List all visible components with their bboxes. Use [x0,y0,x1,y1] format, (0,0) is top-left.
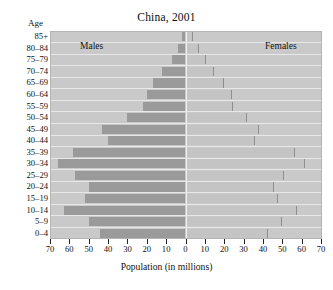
y-tick-label-20–24: 20–24 [2,181,48,191]
bar-male-40–44 [108,136,185,145]
bar-male-35–39 [73,148,185,157]
bar-male-45–49 [102,125,185,134]
bar-male-0–4 [100,229,185,238]
x-tick-label-13: 60 [292,244,312,254]
row-separator [50,135,322,136]
bar-female-15–19 [187,194,278,203]
y-tick-label-30–34: 30–34 [2,158,48,168]
x-axis-tick-labels: 70605040302010010203040506070 [0,244,333,256]
bar-male-55–59 [143,102,186,111]
row-separator [50,111,322,112]
x-tick-label-10: 30 [234,244,254,254]
x-tick-label-4: 30 [117,244,137,254]
y-tick-label-60–64: 60–64 [2,89,48,99]
x-tick-label-12: 50 [272,244,292,254]
bar-female-10–14 [187,206,297,215]
y-tick-label-0–4: 0–4 [2,228,48,238]
x-tick-label-3: 40 [98,244,118,254]
bar-male-50–54 [127,113,185,122]
bar-female-35–39 [187,148,295,157]
y-tick-label-5–9: 5–9 [2,216,48,226]
y-tick-label-10–14: 10–14 [2,205,48,215]
bar-male-70–74 [162,67,185,76]
x-tick-label-7: 0 [176,244,196,254]
row-separator [50,123,322,124]
y-tick-label-25–29: 25–29 [2,170,48,180]
chart-title: China, 2001 [0,11,333,23]
bar-male-30–34 [58,159,186,168]
bar-female-20–24 [187,182,274,191]
bar-female-85+ [187,32,193,41]
bar-female-0–4 [187,229,268,238]
y-tick-label-35–39: 35–39 [2,147,48,157]
x-tick-label-5: 20 [137,244,157,254]
bar-male-80–84 [178,44,186,53]
y-tick-label-55–59: 55–59 [2,101,48,111]
bar-male-15–19 [85,194,186,203]
y-tick-label-50–54: 50–54 [2,112,48,122]
row-separator [50,65,322,66]
y-tick-label-85+: 85+ [2,31,48,41]
bar-male-5–9 [89,217,186,226]
bar-female-55–59 [187,102,233,111]
bar-female-50–54 [187,113,247,122]
bar-male-25–29 [75,171,185,180]
x-tick-label-14: 70 [311,244,331,254]
bar-female-25–29 [187,171,284,180]
y-tick-label-80–84: 80–84 [2,43,48,53]
bar-female-45–49 [187,125,259,134]
bar-male-10–14 [64,206,186,215]
row-separator [50,227,322,228]
x-tick-label-0: 70 [40,244,60,254]
row-separator [50,77,322,78]
bar-female-70–74 [187,67,214,76]
bar-male-85+ [182,32,186,41]
y-axis-tick-labels: 85+80–8475–7970–7465–6960–6455–5950–5445… [0,31,48,239]
x-tick-label-6: 10 [156,244,176,254]
x-tick-label-1: 60 [59,244,79,254]
bar-female-65–69 [187,78,224,87]
x-tick-label-11: 40 [253,244,273,254]
series-label-females: Females [265,41,297,51]
bar-male-65–69 [153,78,186,87]
bar-female-60–64 [187,90,232,99]
population-pyramid-figure: China, 2001 Age 85+80–8475–7970–7465–696… [0,0,333,290]
bar-female-5–9 [187,217,282,226]
x-axis-title: Population (in millions) [0,261,333,272]
bar-male-20–24 [89,182,186,191]
bar-female-80–84 [187,44,199,53]
x-tick-label-2: 50 [79,244,99,254]
x-tick-label-9: 20 [214,244,234,254]
y-axis-title: Age [28,18,43,28]
y-tick-label-15–19: 15–19 [2,193,48,203]
y-tick-label-70–74: 70–74 [2,66,48,76]
row-separator [50,88,322,89]
x-tick-label-8: 10 [195,244,215,254]
plot-area [50,31,322,239]
bar-male-60–64 [147,90,186,99]
bar-female-75–79 [187,55,206,64]
series-label-males: Males [80,41,103,51]
bar-female-30–34 [187,159,305,168]
y-tick-label-45–49: 45–49 [2,124,48,134]
row-separator [50,54,322,55]
bar-female-40–44 [187,136,255,145]
row-separator [50,100,322,101]
bar-male-75–79 [172,55,186,64]
y-tick-label-65–69: 65–69 [2,77,48,87]
y-tick-label-40–44: 40–44 [2,135,48,145]
y-tick-label-75–79: 75–79 [2,54,48,64]
